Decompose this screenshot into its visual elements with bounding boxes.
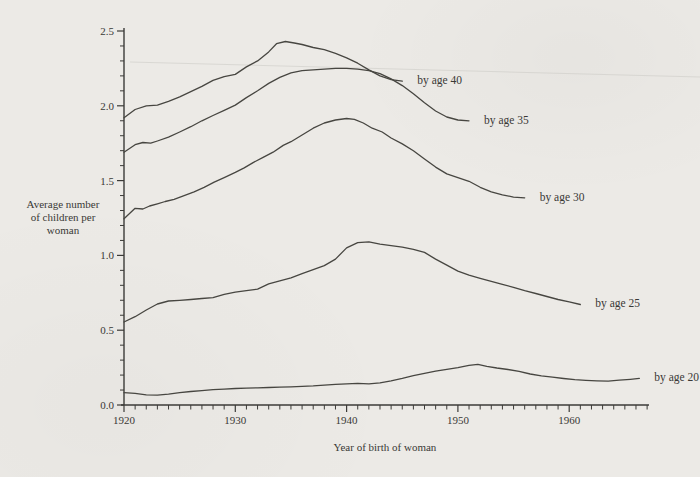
y-axis-title: Average number of children per woman	[14, 198, 112, 237]
series-label-by-age-25: by age 25	[595, 297, 640, 310]
y-tick-label-1.0: 1.0	[100, 249, 114, 261]
series-line-by-age-25	[124, 242, 580, 322]
y-tick-label-0.0: 0.0	[100, 399, 114, 411]
y-tick-label-0.5: 0.5	[100, 324, 114, 336]
series-label-by-age-40: by age 40	[417, 74, 462, 87]
y-tick-label-2.5: 2.5	[100, 25, 114, 37]
y-axis-title-line-2: of children per	[14, 211, 112, 224]
x-tick-label-1950: 1950	[447, 414, 470, 426]
x-tick-label-1940: 1940	[336, 414, 359, 426]
scan-artifact-line	[130, 62, 700, 77]
series-line-by-age-30	[124, 119, 525, 219]
y-tick-label-1.5: 1.5	[100, 175, 114, 187]
series-label-by-age-35: by age 35	[484, 114, 529, 127]
series-line-by-age-20	[124, 364, 639, 395]
cohort-fertility-chart: 0.00.51.01.52.02.519201930194019501960by…	[0, 0, 700, 477]
series-label-by-age-30: by age 30	[540, 191, 585, 204]
x-tick-label-1930: 1930	[224, 414, 247, 426]
y-axis-title-line-1: Average number	[14, 198, 112, 211]
x-axis-title: Year of birth of woman	[284, 441, 486, 453]
x-tick-label-1920: 1920	[113, 414, 136, 426]
x-tick-label-1960: 1960	[558, 414, 581, 426]
y-tick-label-2.0: 2.0	[100, 100, 114, 112]
series-line-by-age-40	[124, 42, 402, 118]
series-label-by-age-20: by age 20	[654, 371, 699, 384]
scanned-chart-page: 0.00.51.01.52.02.519201930194019501960by…	[0, 0, 700, 477]
y-axis-title-line-3: woman	[14, 224, 112, 237]
